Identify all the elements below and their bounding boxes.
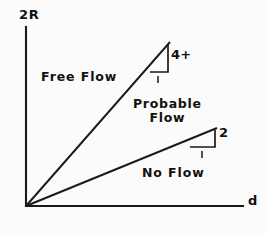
region-label-probable-flow-line2: Flow xyxy=(133,111,202,125)
region-label-free-flow: Free Flow xyxy=(41,70,117,84)
flow-regime-diagram: 2R d Free Flow Probable Flow No Flow 4+ … xyxy=(0,0,268,234)
region-label-no-flow: No Flow xyxy=(142,166,205,180)
shallow-slope-rise-label: 2 xyxy=(219,126,228,141)
region-label-probable-flow-line1: Probable xyxy=(133,96,202,111)
y-axis-label: 2R xyxy=(19,8,40,23)
steep-slope-rise-label: 4+ xyxy=(171,48,192,63)
region-label-probable-flow: Probable Flow xyxy=(133,97,202,126)
x-axis-label: d xyxy=(248,194,258,209)
